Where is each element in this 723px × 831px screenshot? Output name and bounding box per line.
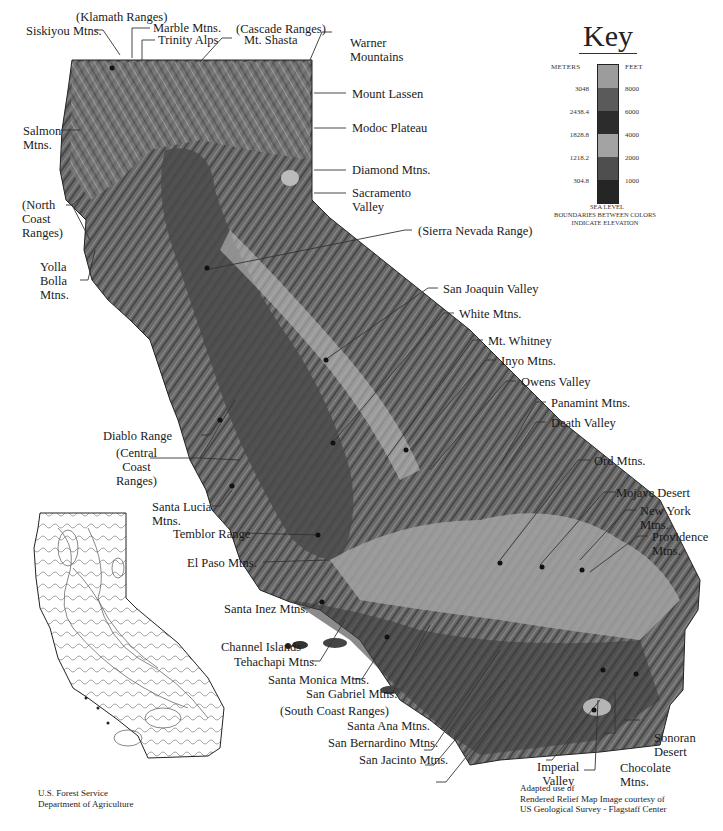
label-san-bernardino-mtns: San Bernardino Mtns. [328, 736, 438, 750]
label-el-paso-mtns: El Paso Mtns. [187, 556, 257, 570]
label-new-york-mtns: New York Mtns. [640, 504, 691, 532]
label-tehachapi-mtns: Tehachapi Mtns. [234, 655, 317, 669]
label-providence-mtns: Providence Mtns. [652, 530, 708, 558]
label-santa-ana-mtns: Santa Ana Mtns. [347, 719, 430, 733]
label-santa-monica-mtns: Santa Monica Mtns. [268, 673, 369, 687]
label-san-gabriel-mtns: San Gabriel Mtns. [306, 687, 397, 701]
label-death-valley: Death Valley [551, 416, 616, 430]
key-note: BOUNDARIES BETWEEN COLORS INDICATE ELEVA… [530, 211, 680, 227]
key-meters-header: METERS [551, 63, 580, 71]
label-diablo-range: Diablo Range [103, 429, 172, 443]
label-channel-islands: Channel Islands [221, 640, 301, 654]
label-mojave-desert: Mojave Desert [616, 486, 690, 500]
label-white-mtns: White Mtns. [459, 307, 522, 321]
label-south-coast-ranges: (South Coast Ranges) [280, 704, 389, 718]
key-band [598, 111, 618, 134]
key-feet-value: 6000 [625, 108, 639, 116]
key-sea-level: SEA LEVEL [585, 203, 629, 211]
label-siskiyou-mtns: Siskiyou Mtns. [26, 24, 102, 38]
label-san-joaquin-valley: San Joaquin Valley [443, 282, 539, 296]
label-sacramento-valley: Sacramento Valley [352, 186, 411, 214]
key-feet-header: FEET [625, 63, 643, 71]
label-ord-mtns: Ord Mtns. [594, 454, 645, 468]
key-title: Key [583, 20, 633, 52]
key-band [598, 134, 618, 157]
key-meters-value: 304.8 [549, 177, 589, 185]
label-central-coast-ranges: (Central Coast Ranges) [116, 446, 157, 488]
label-panamint-mtns: Panamint Mtns. [551, 396, 630, 410]
key-meters-value: 2438.4 [549, 108, 589, 116]
key-band [598, 88, 618, 111]
key-feet-value: 2000 [625, 154, 639, 162]
key-meters-value: 3048 [549, 85, 589, 93]
key-band [598, 65, 618, 88]
label-yolla-bolla-mtns: Yolla Bolla Mtns. [40, 260, 69, 302]
label-sonoran-desert: Sonoran Desert [654, 731, 696, 759]
key-color-bar [597, 64, 619, 204]
label-temblor-range: Temblor Range [173, 527, 250, 541]
key-underline [579, 53, 637, 54]
key-feet-value: 4000 [625, 131, 639, 139]
relief-map-figure: Key METERS FEET 3048 8000 2438.4 6000 18… [0, 0, 723, 831]
key-band [598, 157, 618, 180]
credit-forest-service: U.S. Forest Service Department of Agricu… [38, 788, 133, 809]
label-santa-lucia-mtns: Santa Lucia Mtns. [152, 500, 211, 528]
key-feet-value: 8000 [625, 85, 639, 93]
label-warner-mountains: Warner Mountains [350, 36, 403, 64]
key-meters-value: 1218.2 [549, 154, 589, 162]
label-sierra-nevada-range: (Sierra Nevada Range) [418, 224, 533, 238]
label-diamond-mtns: Diamond Mtns. [352, 163, 430, 177]
label-santa-inez-mtns: Santa Inez Mtns. [224, 602, 308, 616]
label-trinity-alps: Trinity Alps [158, 33, 218, 47]
key-meters-value: 1828.8 [549, 131, 589, 139]
label-san-jacinto-mtns: San Jacinto Mtns. [359, 753, 448, 767]
inset-contour-map [28, 508, 228, 768]
label-inyo-mtns: Inyo Mtns. [501, 354, 556, 368]
label-mt-shasta: Mt. Shasta [244, 33, 297, 47]
label-mount-lassen: Mount Lassen [352, 87, 423, 101]
key-feet-value: 1000 [625, 177, 639, 185]
label-modoc-plateau: Modoc Plateau [352, 121, 427, 135]
label-owens-valley: Owens Valley [521, 375, 591, 389]
key-band [598, 180, 618, 203]
label-salmon-mtns: Salmon Mtns. [23, 124, 61, 152]
label-north-coast-ranges: (North Coast Ranges) [22, 198, 63, 240]
credit-usgs: Adapted use of Rendered Relief Map Image… [520, 783, 667, 815]
label-mt-whitney: Mt. Whitney [488, 334, 552, 348]
